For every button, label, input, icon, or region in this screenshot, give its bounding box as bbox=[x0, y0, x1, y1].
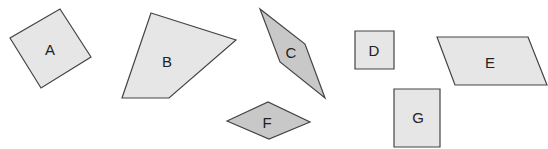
shape-a: A bbox=[10, 9, 91, 88]
shape-a-label: A bbox=[45, 41, 55, 58]
shape-g-label: G bbox=[412, 109, 424, 126]
shape-c: C bbox=[260, 9, 325, 98]
shape-b-label: B bbox=[162, 53, 172, 70]
shapes-diagram: A B C D E F G bbox=[0, 0, 548, 149]
shape-g: G bbox=[394, 89, 440, 147]
shape-d: D bbox=[355, 31, 394, 69]
shape-f: F bbox=[227, 102, 310, 139]
diagram-canvas: A B C D E F G bbox=[0, 0, 548, 149]
shape-e-label: E bbox=[485, 54, 495, 71]
shape-b-polygon bbox=[122, 13, 236, 98]
shape-d-label: D bbox=[369, 42, 380, 59]
shape-c-label: C bbox=[286, 44, 297, 61]
shape-f-label: F bbox=[262, 114, 271, 131]
shape-e: E bbox=[437, 37, 547, 85]
shape-b: B bbox=[122, 13, 236, 98]
